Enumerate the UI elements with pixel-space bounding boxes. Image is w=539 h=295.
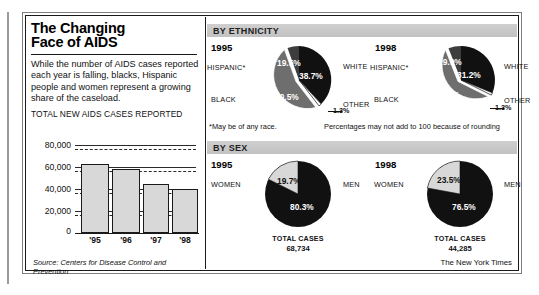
- ytick-60000: 60,000: [31, 162, 71, 172]
- ethnicity-1998-hispanic-value: 19.9%: [438, 57, 462, 67]
- xtick-1996: '96: [111, 235, 141, 245]
- section-band-ethnicity: BY ETHNICITY: [207, 24, 517, 37]
- ethnicity-1995-other-value: 1.3%: [333, 106, 349, 115]
- bar-1996: [112, 169, 140, 233]
- ethnicity-1998-pie: [423, 42, 499, 118]
- sex-1998-pie: [423, 157, 497, 231]
- bar-1995: [81, 164, 109, 233]
- ethnicity-1998-white-value: 31.2%: [457, 70, 481, 80]
- graphic-frame: The Changing Face of AIDS While the numb…: [22, 12, 522, 274]
- ethnicity-1998-year: 1998: [375, 42, 396, 53]
- gridline-80000: [75, 145, 196, 146]
- footnote-rounding: Percentages may not add to 100 because o…: [324, 122, 500, 131]
- ethnicity-1998-other-value: 1.3%: [495, 103, 511, 112]
- source-note: Source: Centers for Disease Control and …: [33, 258, 201, 276]
- ethnicity-1995-hispanic-value: 19.5%: [277, 58, 301, 68]
- gridline-80000-dash: [75, 149, 196, 150]
- sex-1995-men-label: MEN: [343, 180, 360, 189]
- sex-1995-women-label: WOMEN: [211, 180, 241, 189]
- section-title-sex: BY SEX: [213, 143, 248, 153]
- sex-1995-total-label: TOTAL CASES: [253, 235, 343, 243]
- sex-1995-total-value: 68,734: [253, 244, 343, 253]
- page-title: The Changing Face of AIDS: [31, 21, 201, 49]
- page-title-line2: Face of AIDS: [31, 35, 201, 49]
- sex-1998-total-label: TOTAL CASES: [415, 235, 505, 243]
- xtick-1998: '98: [170, 235, 200, 245]
- sex-1998-men-label: MEN: [504, 180, 521, 189]
- bar-chart-title: TOTAL NEW AIDS CASES REPORTED: [31, 109, 201, 119]
- sex-1995-men-value: 80.3%: [290, 202, 314, 212]
- ethnicity-1995-hispanic-label: HISPANIC*: [207, 63, 246, 72]
- panel-divider: [205, 17, 206, 269]
- credit-line: The New York Times: [440, 258, 512, 267]
- ethnicity-1995-year: 1995: [211, 42, 232, 53]
- sex-1998-men-value: 76.5%: [452, 202, 476, 212]
- footnote-race: *May be of any race.: [209, 122, 277, 131]
- bar-1998: [172, 189, 198, 233]
- bar-chart: 80,000 60,000 40,000 20,000 0 '95 '96 '9…: [31, 145, 203, 247]
- sex-1998-women-label: WOMEN: [374, 180, 404, 189]
- xtick-1995: '95: [80, 235, 110, 245]
- sex-1998-women-value: 23.5%: [437, 175, 461, 185]
- ethnicity-1998-black-label: BLACK: [374, 95, 399, 104]
- ethnicity-1995-white-label: WHITE: [343, 62, 368, 71]
- ytick-0: 0: [31, 226, 71, 236]
- intro-paragraph: While the number of AIDS cases reported …: [31, 59, 199, 105]
- sex-1998-total-value: 44,285: [415, 244, 505, 253]
- ethnicity-1995-white-value: 38.7%: [299, 71, 323, 81]
- ethnicity-1995-black-label: BLACK: [211, 95, 236, 104]
- section-title-ethnicity: BY ETHNICITY: [213, 26, 279, 36]
- ytick-20000: 20,000: [31, 206, 71, 216]
- right-panel: BY ETHNICITY 1995 HISPANIC* BLACK WHITE …: [207, 16, 517, 270]
- ethnicity-1998-black-value: 47.5%: [436, 90, 460, 100]
- sex-1995-women-value: 19.7%: [277, 176, 301, 186]
- ethnicity-1995-black-value: 40.5%: [275, 92, 299, 102]
- ytick-40000: 40,000: [31, 184, 71, 194]
- infographic-page: The Changing Face of AIDS While the numb…: [0, 0, 539, 295]
- xtick-1997: '97: [141, 235, 171, 245]
- ytick-80000: 80,000: [31, 140, 71, 150]
- sex-1998-year: 1998: [375, 159, 396, 170]
- sex-1995-year: 1995: [211, 159, 232, 170]
- ethnicity-1998-white-label: WHITE: [504, 62, 529, 71]
- title-divider: [31, 54, 197, 55]
- ethnicity-1998-hispanic-label: HISPANIC*: [370, 63, 409, 72]
- sex-1995-pie: [261, 157, 335, 231]
- left-panel: The Changing Face of AIDS While the numb…: [29, 18, 201, 268]
- bar-1997: [143, 184, 169, 233]
- section-band-sex: BY SEX: [207, 141, 517, 154]
- page-column-rule: [7, 12, 9, 284]
